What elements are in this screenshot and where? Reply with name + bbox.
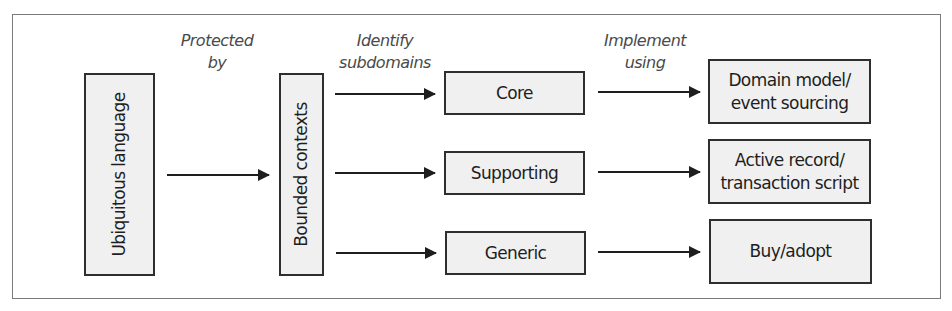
- arrows-layer: [0, 0, 952, 311]
